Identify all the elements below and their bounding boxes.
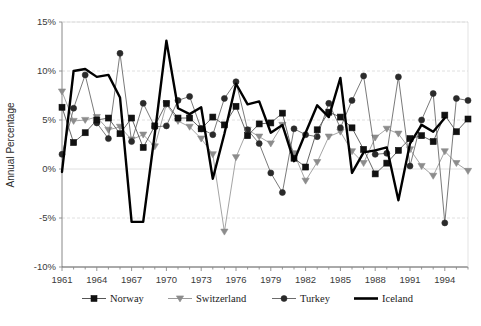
data-point-marker bbox=[361, 73, 367, 79]
x-tick-label: 1991 bbox=[399, 274, 420, 285]
data-point-marker bbox=[163, 123, 169, 129]
x-tick-label: 1973 bbox=[191, 274, 212, 285]
data-point-marker bbox=[71, 105, 77, 111]
data-point-marker bbox=[233, 103, 239, 109]
data-point-marker bbox=[256, 121, 262, 127]
data-point-marker bbox=[210, 132, 216, 138]
data-point-marker bbox=[117, 50, 123, 56]
x-tick-label: 1982 bbox=[295, 274, 316, 285]
y-tick-label: 10% bbox=[37, 65, 57, 76]
data-point-marker bbox=[221, 95, 227, 101]
x-tick-label: 1979 bbox=[260, 274, 281, 285]
data-point-marker bbox=[326, 100, 332, 106]
x-tick-label: 1967 bbox=[121, 274, 142, 285]
data-point-marker bbox=[465, 97, 471, 103]
line-chart: 15%10%5%0%-5%-10% 1961196419671970197319… bbox=[0, 0, 481, 326]
x-tick-label: 1976 bbox=[225, 274, 246, 285]
legend-label: Switzerland bbox=[196, 293, 247, 304]
x-tick-label: 1985 bbox=[330, 274, 351, 285]
data-point-marker bbox=[419, 117, 425, 123]
data-point-marker bbox=[245, 133, 251, 139]
legend-label: Iceland bbox=[382, 293, 414, 304]
legend-label: Norway bbox=[110, 293, 145, 304]
data-point-marker bbox=[187, 93, 193, 99]
data-point-marker bbox=[140, 144, 146, 150]
data-point-marker bbox=[453, 95, 459, 101]
data-point-marker bbox=[372, 171, 378, 177]
data-point-marker bbox=[407, 163, 413, 169]
data-point-marker bbox=[129, 139, 135, 145]
data-point-marker bbox=[430, 91, 436, 97]
data-point-marker bbox=[349, 97, 355, 103]
data-point-marker bbox=[465, 116, 471, 122]
data-point-marker bbox=[94, 117, 100, 123]
data-point-marker bbox=[105, 136, 111, 142]
data-point-marker bbox=[91, 296, 97, 302]
data-point-marker bbox=[314, 127, 320, 133]
y-tick-label: -5% bbox=[39, 212, 56, 223]
y-tick-label: 5% bbox=[42, 114, 56, 125]
y-tick-label: -10% bbox=[34, 261, 57, 272]
data-point-marker bbox=[163, 100, 169, 106]
data-point-marker bbox=[187, 115, 193, 121]
data-point-marker bbox=[349, 125, 355, 131]
data-point-marker bbox=[337, 125, 343, 131]
data-point-marker bbox=[268, 170, 274, 176]
x-tick-label: 1994 bbox=[434, 274, 455, 285]
data-point-marker bbox=[82, 72, 88, 78]
data-point-marker bbox=[105, 115, 111, 121]
data-point-marker bbox=[71, 140, 77, 146]
data-point-marker bbox=[419, 133, 425, 139]
legend-label: Turkey bbox=[300, 293, 331, 304]
data-point-marker bbox=[291, 126, 297, 132]
data-point-marker bbox=[430, 139, 436, 145]
data-point-marker bbox=[442, 220, 448, 226]
data-point-marker bbox=[140, 100, 146, 106]
data-point-marker bbox=[303, 164, 309, 170]
data-point-marker bbox=[59, 104, 65, 110]
y-axis-title: Annual Percentage bbox=[5, 102, 16, 188]
data-point-marker bbox=[175, 115, 181, 121]
x-tick-label: 1970 bbox=[156, 274, 177, 285]
x-tick-label: 1961 bbox=[51, 274, 72, 285]
data-point-marker bbox=[395, 74, 401, 80]
data-point-marker bbox=[279, 190, 285, 196]
chart-container: 15%10%5%0%-5%-10% 1961196419671970197319… bbox=[0, 0, 481, 326]
x-tick-label: 1988 bbox=[365, 274, 386, 285]
data-point-marker bbox=[82, 130, 88, 136]
data-point-marker bbox=[372, 151, 378, 157]
data-point-marker bbox=[129, 115, 135, 121]
data-point-marker bbox=[453, 129, 459, 135]
data-point-marker bbox=[256, 141, 262, 147]
data-point-marker bbox=[210, 114, 216, 120]
data-point-marker bbox=[337, 114, 343, 120]
y-tick-label: 15% bbox=[37, 16, 57, 27]
data-point-marker bbox=[395, 147, 401, 153]
x-tick-label: 1964 bbox=[86, 274, 107, 285]
data-point-marker bbox=[279, 110, 285, 116]
data-point-marker bbox=[281, 296, 287, 302]
y-tick-label: 0% bbox=[42, 163, 56, 174]
